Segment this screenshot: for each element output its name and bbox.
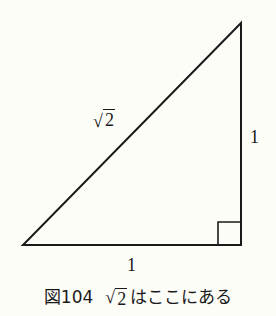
right-triangle xyxy=(23,23,241,245)
caption-radicand: 2 xyxy=(115,288,127,308)
triangle-figure: √2 1 1 xyxy=(0,0,276,316)
radicand: 2 xyxy=(103,109,115,129)
sqrt-expression: √2 xyxy=(93,109,115,129)
figure-number: 図104 xyxy=(44,287,93,307)
hypotenuse-label: √2 xyxy=(93,109,115,129)
caption-sqrt-expression: √2 xyxy=(105,288,127,308)
figure-caption: 図104√2はここにある xyxy=(0,288,276,308)
radical-sign: √ xyxy=(93,112,103,130)
bottom-side-label: 1 xyxy=(127,256,136,274)
caption-text: はここにある xyxy=(130,287,232,307)
right-angle-marker xyxy=(218,222,241,245)
triangle-drawing xyxy=(0,0,276,316)
caption-radical-sign: √ xyxy=(105,288,115,308)
right-side-label: 1 xyxy=(250,128,259,146)
